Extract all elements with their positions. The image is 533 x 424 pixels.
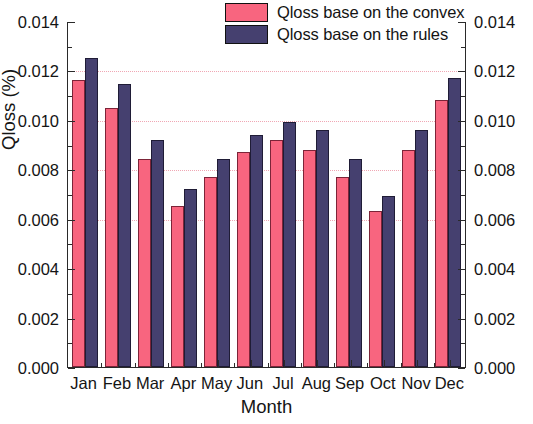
bar-rules[interactable] bbox=[250, 135, 263, 367]
y-tick-minor bbox=[461, 244, 465, 245]
x-tick-minor bbox=[268, 363, 269, 367]
y-axis-title: Qloss (%) bbox=[0, 69, 20, 150]
bar-group bbox=[101, 22, 134, 367]
x-tick-minor bbox=[234, 363, 235, 367]
legend-item-rules: Qloss base on the rules bbox=[225, 23, 464, 45]
plot-area bbox=[67, 22, 466, 368]
x-tick-major bbox=[184, 360, 185, 367]
x-tick-minor bbox=[367, 363, 368, 367]
legend-item-convex: Qloss base on the convex bbox=[225, 1, 464, 23]
y-tick-label: 0.006 bbox=[18, 212, 59, 228]
y-tick-label: 0.012 bbox=[18, 63, 59, 79]
y-tick-major bbox=[68, 368, 75, 369]
y-tick-major bbox=[458, 319, 465, 320]
bar-groups bbox=[68, 22, 465, 367]
y-tick-label-right: 0.004 bbox=[474, 261, 515, 277]
x-tick-minor bbox=[201, 363, 202, 367]
bar-group bbox=[432, 22, 465, 367]
y-tick-minor bbox=[68, 195, 72, 196]
x-tick-minor bbox=[334, 363, 335, 367]
bar-convex[interactable] bbox=[105, 108, 118, 368]
x-tick-major bbox=[351, 360, 352, 367]
bar-convex[interactable] bbox=[270, 140, 283, 367]
x-tick-minor bbox=[301, 363, 302, 367]
y-tick-minor bbox=[68, 343, 72, 344]
y-tick-minor bbox=[68, 146, 72, 147]
bar-convex[interactable] bbox=[336, 177, 349, 367]
bar-group bbox=[366, 22, 399, 367]
y-tick-label: 0.014 bbox=[18, 14, 59, 30]
bar-convex[interactable] bbox=[171, 206, 184, 367]
bar-rules[interactable] bbox=[85, 58, 98, 367]
bar-rules[interactable] bbox=[217, 159, 230, 367]
bar-group bbox=[333, 22, 366, 367]
y-tick-label: 0.002 bbox=[18, 311, 59, 327]
y-tick-major bbox=[68, 269, 75, 270]
y-tick-minor bbox=[68, 47, 72, 48]
x-tick-major bbox=[417, 360, 418, 367]
legend-swatch-rules bbox=[225, 25, 268, 44]
bar-group bbox=[68, 22, 101, 367]
x-axis-title: Month bbox=[0, 396, 533, 418]
y-tick-label: 0.004 bbox=[18, 261, 59, 277]
bar-convex[interactable] bbox=[435, 100, 448, 367]
bar-group bbox=[167, 22, 200, 367]
bar-convex[interactable] bbox=[204, 177, 217, 367]
chart-legend: Qloss base on the convex Qloss base on t… bbox=[225, 1, 464, 45]
y-tick-label: 0.008 bbox=[18, 162, 59, 178]
bar-rules[interactable] bbox=[118, 84, 131, 367]
x-tick-major bbox=[317, 360, 318, 367]
x-tick-major bbox=[218, 360, 219, 367]
bar-convex[interactable] bbox=[72, 80, 85, 367]
bar-rules[interactable] bbox=[283, 122, 296, 367]
y-tick-major bbox=[458, 220, 465, 221]
y-tick-major bbox=[458, 269, 465, 270]
y-tick-minor bbox=[461, 195, 465, 196]
y-tick-major bbox=[458, 121, 465, 122]
bar-group bbox=[233, 22, 266, 367]
x-tick-minor bbox=[434, 363, 435, 367]
y-tick-minor bbox=[68, 244, 72, 245]
bar-convex[interactable] bbox=[237, 152, 250, 367]
legend-swatch-convex bbox=[225, 3, 268, 22]
y-tick-label-right: 0.008 bbox=[474, 162, 515, 178]
bar-convex[interactable] bbox=[303, 150, 316, 367]
bar-rules[interactable] bbox=[382, 196, 395, 367]
y-tick-minor bbox=[461, 146, 465, 147]
x-tick-major bbox=[118, 360, 119, 367]
y-tick-major bbox=[458, 71, 465, 72]
bar-rules[interactable] bbox=[151, 140, 164, 367]
bar-convex[interactable] bbox=[402, 150, 415, 367]
y-tick-minor bbox=[461, 343, 465, 344]
bar-group bbox=[266, 22, 299, 367]
bar-rules[interactable] bbox=[316, 130, 329, 367]
x-tick-minor bbox=[135, 363, 136, 367]
bar-group bbox=[134, 22, 167, 367]
bar-rules[interactable] bbox=[349, 159, 362, 367]
y-tick-minor bbox=[68, 294, 72, 295]
y-tick-major bbox=[458, 368, 465, 369]
y-tick-label: 0.010 bbox=[18, 113, 59, 129]
y-tick-minor bbox=[461, 47, 465, 48]
y-tick-major bbox=[68, 319, 75, 320]
x-tick-major bbox=[450, 360, 451, 367]
y-tick-label-right: 0.006 bbox=[474, 212, 515, 228]
y-tick-major bbox=[68, 220, 75, 221]
y-tick-major bbox=[68, 71, 75, 72]
x-tick-major bbox=[151, 360, 152, 367]
bar-group bbox=[300, 22, 333, 367]
bar-group bbox=[399, 22, 432, 367]
y-tick-major bbox=[68, 22, 75, 23]
bar-convex[interactable] bbox=[138, 159, 151, 367]
x-tick-major bbox=[251, 360, 252, 367]
bar-rules[interactable] bbox=[415, 130, 428, 367]
y-tick-minor bbox=[68, 96, 72, 97]
bar-convex[interactable] bbox=[369, 211, 382, 367]
y-tick-label-right: 0.012 bbox=[474, 63, 515, 79]
bar-rules[interactable] bbox=[184, 189, 197, 367]
chart-figure: Qloss base on the convex Qloss base on t… bbox=[0, 0, 533, 424]
y-tick-label: 0.000 bbox=[18, 360, 59, 376]
y-tick-major bbox=[68, 121, 75, 122]
x-tick-major bbox=[284, 360, 285, 367]
x-tick-major bbox=[384, 360, 385, 367]
